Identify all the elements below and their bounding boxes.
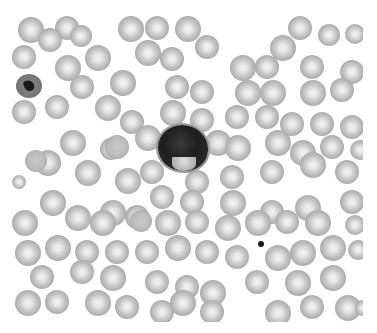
red-blood-cell bbox=[300, 152, 326, 178]
blood-smear-image bbox=[12, 15, 363, 322]
red-blood-cell bbox=[155, 210, 181, 236]
red-blood-cell bbox=[38, 28, 62, 52]
red-blood-cell bbox=[320, 235, 346, 261]
red-blood-cell bbox=[330, 78, 354, 102]
red-blood-cell bbox=[75, 160, 101, 186]
red-blood-cell bbox=[310, 112, 334, 136]
red-blood-cell bbox=[285, 270, 311, 296]
red-blood-cell bbox=[288, 16, 312, 40]
red-blood-cell bbox=[215, 215, 241, 241]
red-blood-cell bbox=[25, 150, 47, 172]
red-blood-cell bbox=[290, 240, 316, 266]
red-blood-cell bbox=[195, 35, 219, 59]
red-blood-cell bbox=[230, 55, 256, 81]
red-blood-cell bbox=[135, 40, 161, 66]
nucleus bbox=[22, 79, 35, 93]
red-blood-cell bbox=[220, 190, 246, 216]
red-blood-cell bbox=[130, 210, 152, 232]
red-blood-cell bbox=[118, 16, 144, 42]
red-blood-cell bbox=[150, 185, 174, 209]
red-blood-cell bbox=[145, 16, 169, 40]
red-blood-cell bbox=[70, 75, 94, 99]
red-blood-cell bbox=[348, 240, 363, 260]
red-blood-cell bbox=[105, 135, 129, 159]
red-blood-cell bbox=[225, 245, 249, 269]
red-blood-cell bbox=[160, 100, 186, 126]
red-blood-cell bbox=[170, 290, 196, 316]
red-blood-cell bbox=[115, 295, 139, 319]
cytoplasm bbox=[172, 157, 196, 171]
red-blood-cell bbox=[70, 260, 94, 284]
red-blood-cell bbox=[70, 25, 92, 47]
red-blood-cell bbox=[320, 135, 344, 159]
red-blood-cell bbox=[225, 135, 251, 161]
red-blood-cell bbox=[140, 160, 164, 184]
red-blood-cell bbox=[115, 168, 141, 194]
red-blood-cell bbox=[260, 80, 286, 106]
red-blood-cell bbox=[45, 95, 69, 119]
red-blood-cell bbox=[340, 115, 363, 139]
red-blood-cell bbox=[345, 24, 363, 44]
red-blood-cell bbox=[260, 160, 284, 184]
red-blood-cell bbox=[320, 265, 346, 291]
platelet bbox=[258, 241, 264, 247]
red-blood-cell bbox=[12, 210, 38, 236]
white-blood-cell bbox=[158, 125, 208, 171]
red-blood-cell bbox=[30, 265, 54, 289]
red-blood-cell bbox=[255, 105, 279, 129]
red-blood-cell bbox=[225, 105, 249, 129]
red-blood-cell bbox=[85, 45, 111, 71]
red-blood-cell bbox=[45, 235, 71, 261]
red-blood-cell bbox=[300, 295, 324, 319]
red-blood-cell bbox=[195, 240, 219, 264]
red-blood-cell bbox=[85, 290, 111, 316]
red-blood-cell bbox=[15, 290, 41, 316]
red-blood-cell bbox=[45, 290, 69, 314]
red-blood-cell bbox=[95, 95, 121, 121]
red-blood-cell bbox=[200, 300, 224, 322]
red-blood-cell bbox=[245, 270, 269, 294]
red-blood-cell bbox=[305, 210, 331, 236]
red-blood-cell bbox=[345, 215, 363, 235]
red-blood-cell bbox=[12, 45, 36, 69]
red-blood-cell bbox=[265, 245, 291, 271]
red-blood-cell bbox=[245, 210, 271, 236]
red-blood-cell bbox=[12, 100, 36, 124]
red-blood-cell bbox=[105, 240, 129, 264]
red-blood-cell bbox=[145, 270, 169, 294]
red-blood-cell bbox=[160, 47, 184, 71]
red-blood-cell bbox=[40, 190, 66, 216]
red-blood-cell bbox=[185, 210, 209, 234]
red-blood-cell bbox=[100, 265, 126, 291]
small-stained-cell bbox=[16, 74, 42, 98]
red-blood-cell bbox=[235, 80, 261, 106]
red-blood-cell bbox=[12, 175, 26, 189]
red-blood-cell bbox=[300, 80, 326, 106]
red-blood-cell bbox=[110, 70, 136, 96]
red-blood-cell bbox=[265, 130, 291, 156]
red-blood-cell bbox=[255, 55, 279, 79]
red-blood-cell bbox=[60, 130, 86, 156]
red-blood-cell bbox=[335, 160, 359, 184]
red-blood-cell bbox=[275, 210, 299, 234]
red-blood-cell bbox=[300, 55, 324, 79]
red-blood-cell bbox=[165, 75, 189, 99]
red-blood-cell bbox=[135, 240, 159, 264]
red-blood-cell bbox=[350, 140, 363, 160]
red-blood-cell bbox=[340, 190, 363, 214]
red-blood-cell bbox=[15, 240, 41, 266]
red-blood-cell bbox=[190, 80, 214, 104]
red-blood-cell bbox=[265, 300, 291, 322]
red-blood-cell bbox=[90, 210, 116, 236]
red-blood-cell bbox=[318, 24, 340, 46]
red-blood-cell bbox=[65, 205, 91, 231]
red-blood-cell bbox=[165, 235, 191, 261]
red-blood-cell bbox=[220, 165, 244, 189]
